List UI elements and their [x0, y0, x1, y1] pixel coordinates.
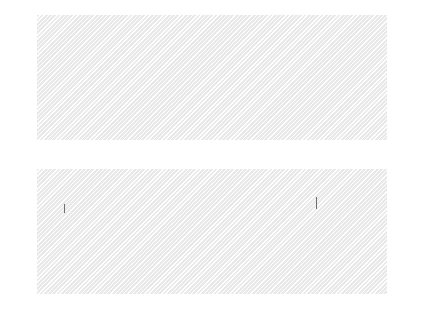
manufacturing-workers-leader-line: [64, 204, 65, 213]
manufacturing-chart: [0, 150, 428, 312]
labor-intensity-line: [0, 0, 428, 146]
manufacturing-value-leader-line: [316, 197, 317, 209]
manufacturing-series-lines: [0, 150, 428, 312]
labor-intensity-chart: [0, 0, 428, 146]
x-axis: [37, 294, 387, 312]
chart-figure: [0, 0, 428, 312]
